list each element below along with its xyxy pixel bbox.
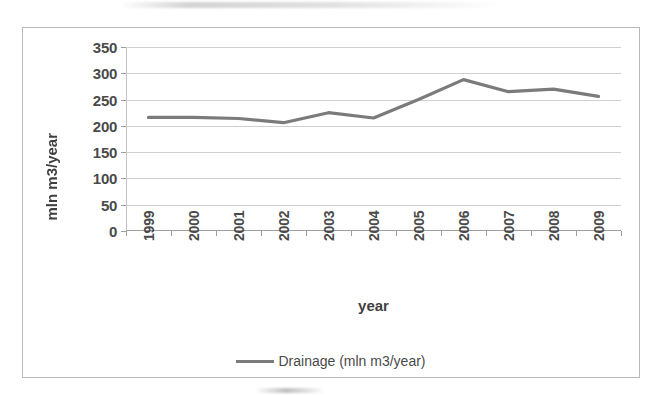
x-tick-mark: [441, 231, 442, 236]
y-axis-title: mln m3/year: [43, 133, 60, 221]
series-line-drainage: [149, 80, 599, 123]
x-tick-mark: [216, 231, 217, 236]
series-layer: [126, 47, 621, 231]
x-tick-mark: [306, 231, 307, 236]
y-tick-label: 250: [93, 91, 117, 108]
x-tick-mark: [261, 231, 262, 236]
scan-artifact-bottom: [255, 388, 325, 393]
plot-area: 050100150200250300350 199920002001200220…: [126, 47, 621, 231]
y-tick-label: 300: [93, 65, 117, 82]
x-tick-mark: [621, 231, 622, 236]
x-tick-mark: [351, 231, 352, 236]
y-tick-label: 200: [93, 117, 117, 134]
y-tick-label: 50: [101, 196, 117, 213]
scan-artifact-top: [120, 2, 500, 8]
legend-item-label: Drainage (mln m3/year): [278, 353, 425, 369]
x-tick-mark: [396, 231, 397, 236]
x-tick-mark: [171, 231, 172, 236]
legend-line-swatch: [236, 360, 274, 363]
x-tick-mark: [126, 231, 127, 236]
x-tick-mark: [531, 231, 532, 236]
x-tick-mark: [576, 231, 577, 236]
x-axis-title: year: [126, 297, 621, 314]
chart-legend: Drainage (mln m3/year): [23, 353, 639, 369]
y-tick-label: 100: [93, 170, 117, 187]
y-tick-label: 350: [93, 39, 117, 56]
x-tick-mark: [486, 231, 487, 236]
y-tick-label: 150: [93, 144, 117, 161]
y-tick-label: 0: [109, 223, 117, 240]
chart-frame: mln m3/year 050100150200250300350 199920…: [22, 27, 640, 378]
